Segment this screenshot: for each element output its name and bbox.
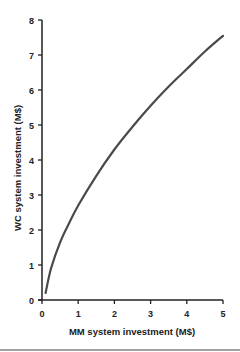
- y-axis-title: WC system investment (M$): [12, 105, 23, 231]
- y-tick-label: 3: [29, 191, 34, 201]
- x-tick-label: 0: [39, 309, 44, 319]
- x-tick-label: 2: [112, 309, 117, 319]
- chart: 012345678 012345 MM system investment (M…: [0, 0, 240, 352]
- y-tick-label: 2: [29, 226, 34, 236]
- x-tick-label: 3: [148, 309, 153, 319]
- x-tick-label: 1: [76, 309, 81, 319]
- data-line: [46, 36, 223, 293]
- y-tick-label: 4: [29, 156, 34, 166]
- y-tick-label: 5: [29, 121, 34, 131]
- y-tick-label: 6: [29, 86, 34, 96]
- y-axis: 012345678: [29, 16, 42, 306]
- x-tick-label: 5: [220, 309, 225, 319]
- y-tick-label: 7: [29, 51, 34, 61]
- y-tick-label: 8: [29, 16, 34, 26]
- y-tick-label: 1: [29, 261, 34, 271]
- x-axis: 012345: [38, 300, 226, 319]
- x-tick-label: 4: [184, 309, 189, 319]
- x-axis-title: MM system investment (M$): [69, 326, 195, 337]
- y-tick-label: 0: [29, 296, 34, 306]
